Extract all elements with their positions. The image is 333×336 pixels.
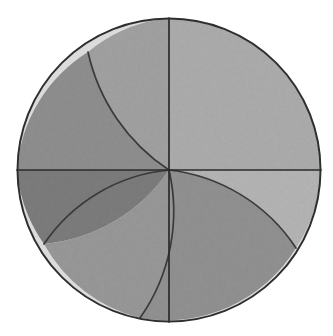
circle-diagram: Shaded circle partitioned by diameters a… — [0, 0, 333, 336]
figure-root: Shaded circle partitioned by diameters a… — [0, 0, 333, 336]
